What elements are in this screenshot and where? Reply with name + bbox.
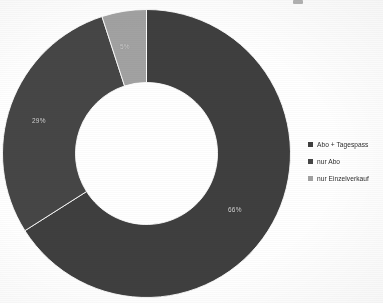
data-label-abo-tagespass: 66% bbox=[228, 206, 242, 213]
legend-swatch-icon bbox=[308, 176, 313, 181]
chart-plot-area bbox=[0, 0, 300, 303]
legend-swatch-icon bbox=[308, 159, 313, 164]
legend-item-label: nur Abo bbox=[317, 157, 340, 166]
legend-item-abo-tagespass[interactable]: Abo + Tagespass bbox=[308, 136, 383, 152]
legend-item-label: nur Einzelverkauf bbox=[317, 174, 369, 183]
legend-item-label: Abo + Tagespass bbox=[317, 140, 368, 149]
donut-svg bbox=[0, 0, 300, 303]
legend-item-nur-abo[interactable]: nur Abo bbox=[308, 153, 383, 169]
donut-slices bbox=[3, 10, 291, 298]
donut-slice[interactable] bbox=[3, 17, 125, 231]
legend-item-nur-einzelverkauf[interactable]: nur Einzelverkauf bbox=[308, 170, 383, 186]
chart-legend: Abo + Tagespass nur Abo nur Einzelverkau… bbox=[308, 136, 383, 187]
donut-chart: 5% 29% 66% Abo + Tagespass nur Abo nur E… bbox=[0, 0, 383, 303]
legend-swatch-icon bbox=[308, 142, 313, 147]
data-label-nur-abo: 29% bbox=[32, 117, 46, 124]
data-label-nur-einzelverkauf: 5% bbox=[120, 43, 130, 50]
